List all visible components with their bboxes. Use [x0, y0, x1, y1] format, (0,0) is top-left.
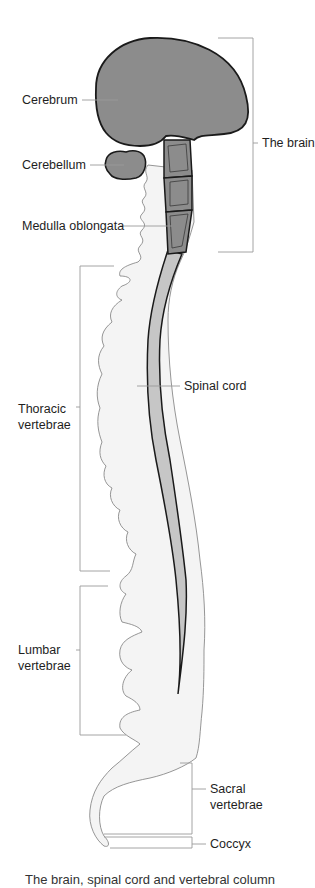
coccyx-bracket	[104, 837, 192, 848]
lumbar-bracket	[80, 586, 126, 735]
brainstem	[164, 140, 192, 254]
label-lumbar-line1: Lumbar	[18, 642, 60, 658]
label-the-brain: The brain	[262, 135, 315, 151]
label-sacral-line1: Sacral	[210, 781, 245, 797]
label-coccyx: Coccyx	[210, 836, 251, 852]
label-cerebrum: Cerebrum	[22, 92, 78, 108]
label-medulla-oblongata: Medulla oblongata	[22, 218, 124, 234]
label-lumbar-line2: vertebrae	[18, 658, 71, 674]
vertebral-column	[90, 165, 205, 846]
label-thoracic-line2: vertebrae	[18, 417, 71, 433]
label-thoracic-line1: Thoracic	[18, 401, 66, 417]
label-sacral-line2: vertebrae	[210, 797, 263, 813]
figure-caption: The brain, spinal cord and vertebral col…	[25, 872, 275, 888]
label-cerebellum: Cerebellum	[22, 157, 86, 173]
label-spinal-cord: Spinal cord	[184, 378, 247, 394]
cerebrum	[96, 38, 248, 146]
